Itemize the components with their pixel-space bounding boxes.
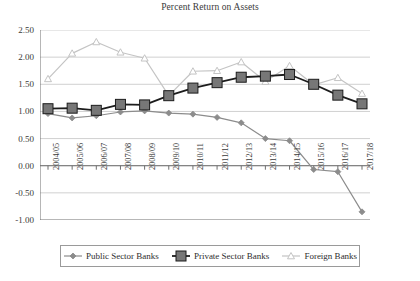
data-point-marker	[164, 91, 174, 101]
y-tick-label: -1.00	[15, 215, 34, 225]
y-tick-label: 2.50	[18, 25, 34, 35]
data-point-marker	[43, 104, 53, 114]
data-point-marker	[214, 114, 220, 120]
y-axis: 2.502.001.501.000.500.00-0.50-1.00	[0, 30, 37, 220]
x-tick-label: 2005/06	[76, 143, 85, 170]
data-point-marker	[67, 103, 77, 113]
data-point-marker	[236, 72, 246, 82]
data-point-marker	[238, 59, 245, 65]
data-point-marker	[357, 99, 367, 109]
x-tick-label: 2010/11	[196, 143, 205, 170]
legend-marker-icon	[171, 250, 191, 262]
chart-title: Percent Return on Assets	[0, 2, 420, 12]
y-tick-label: 1.00	[18, 106, 34, 116]
x-tick-label: 2014/15	[293, 143, 302, 170]
data-point-marker	[91, 105, 101, 115]
x-tick-label: 2012/13	[245, 143, 254, 170]
x-tick-label: 2017/18	[366, 143, 375, 170]
legend-label: Foreign Banks	[304, 251, 357, 261]
data-point-marker	[260, 71, 270, 81]
data-point-marker	[69, 50, 76, 56]
x-tick-label: 2008/09	[148, 143, 157, 170]
data-point-marker	[212, 78, 222, 88]
x-tick-label: 2015/16	[317, 143, 326, 170]
data-point-marker	[334, 74, 341, 80]
x-tick-label: 2007/08	[124, 143, 133, 170]
x-tick-label: 2011/12	[221, 143, 230, 170]
chart-legend: Public Sector BanksPrivate Sector BanksF…	[60, 245, 360, 267]
legend-label: Private Sector Banks	[194, 251, 270, 261]
data-point-marker	[117, 49, 124, 55]
y-tick-label: 0.50	[18, 134, 34, 144]
data-point-marker	[190, 111, 196, 117]
data-point-marker	[69, 115, 75, 121]
x-tick-label: 2016/17	[341, 143, 350, 170]
y-tick-label: 1.50	[18, 79, 34, 89]
y-tick-label: -0.50	[15, 188, 34, 198]
x-axis: 2004/052005/062006/072007/082008/092009/…	[40, 168, 370, 238]
data-point-marker	[140, 100, 150, 110]
data-point-marker	[286, 62, 293, 68]
data-point-marker	[115, 99, 125, 109]
data-point-marker	[285, 70, 295, 80]
data-point-marker	[93, 38, 100, 44]
data-point-marker	[333, 90, 343, 100]
legend-entry[interactable]: Public Sector Banks	[63, 250, 159, 262]
y-tick-label: 2.00	[18, 52, 34, 62]
series-private-sector-banks	[43, 70, 367, 116]
data-point-marker	[176, 251, 186, 261]
x-tick-label: 2006/07	[100, 143, 109, 170]
data-point-marker	[309, 79, 319, 89]
data-point-marker	[188, 83, 198, 93]
x-tick-label: 2013/14	[269, 143, 278, 170]
x-tick-label: 2004/05	[52, 143, 61, 170]
data-point-marker	[262, 136, 268, 142]
data-point-marker	[70, 253, 76, 259]
legend-entry[interactable]: Foreign Banks	[281, 250, 357, 262]
data-point-marker	[359, 90, 366, 96]
legend-entry[interactable]: Private Sector Banks	[171, 250, 270, 262]
legend-marker-icon	[63, 250, 83, 262]
legend-marker-icon	[281, 250, 301, 262]
data-point-marker	[238, 120, 244, 126]
chart-container: Percent Return on Assets 2.502.001.501.0…	[0, 0, 420, 281]
x-tick-label: 2009/10	[172, 143, 181, 170]
y-tick-label: 0.00	[18, 161, 34, 171]
legend-label: Public Sector Banks	[86, 251, 159, 261]
